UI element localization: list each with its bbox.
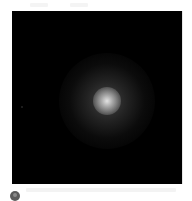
glow-image[interactable] [12,11,182,184]
faint-header-text [30,3,150,8]
noise-speck [21,106,23,108]
faint-text-fragment [30,3,48,7]
caption-row [8,188,188,201]
avatar-icon[interactable] [10,191,20,201]
faint-caption-text [26,188,176,192]
faint-text-fragment [70,3,88,7]
